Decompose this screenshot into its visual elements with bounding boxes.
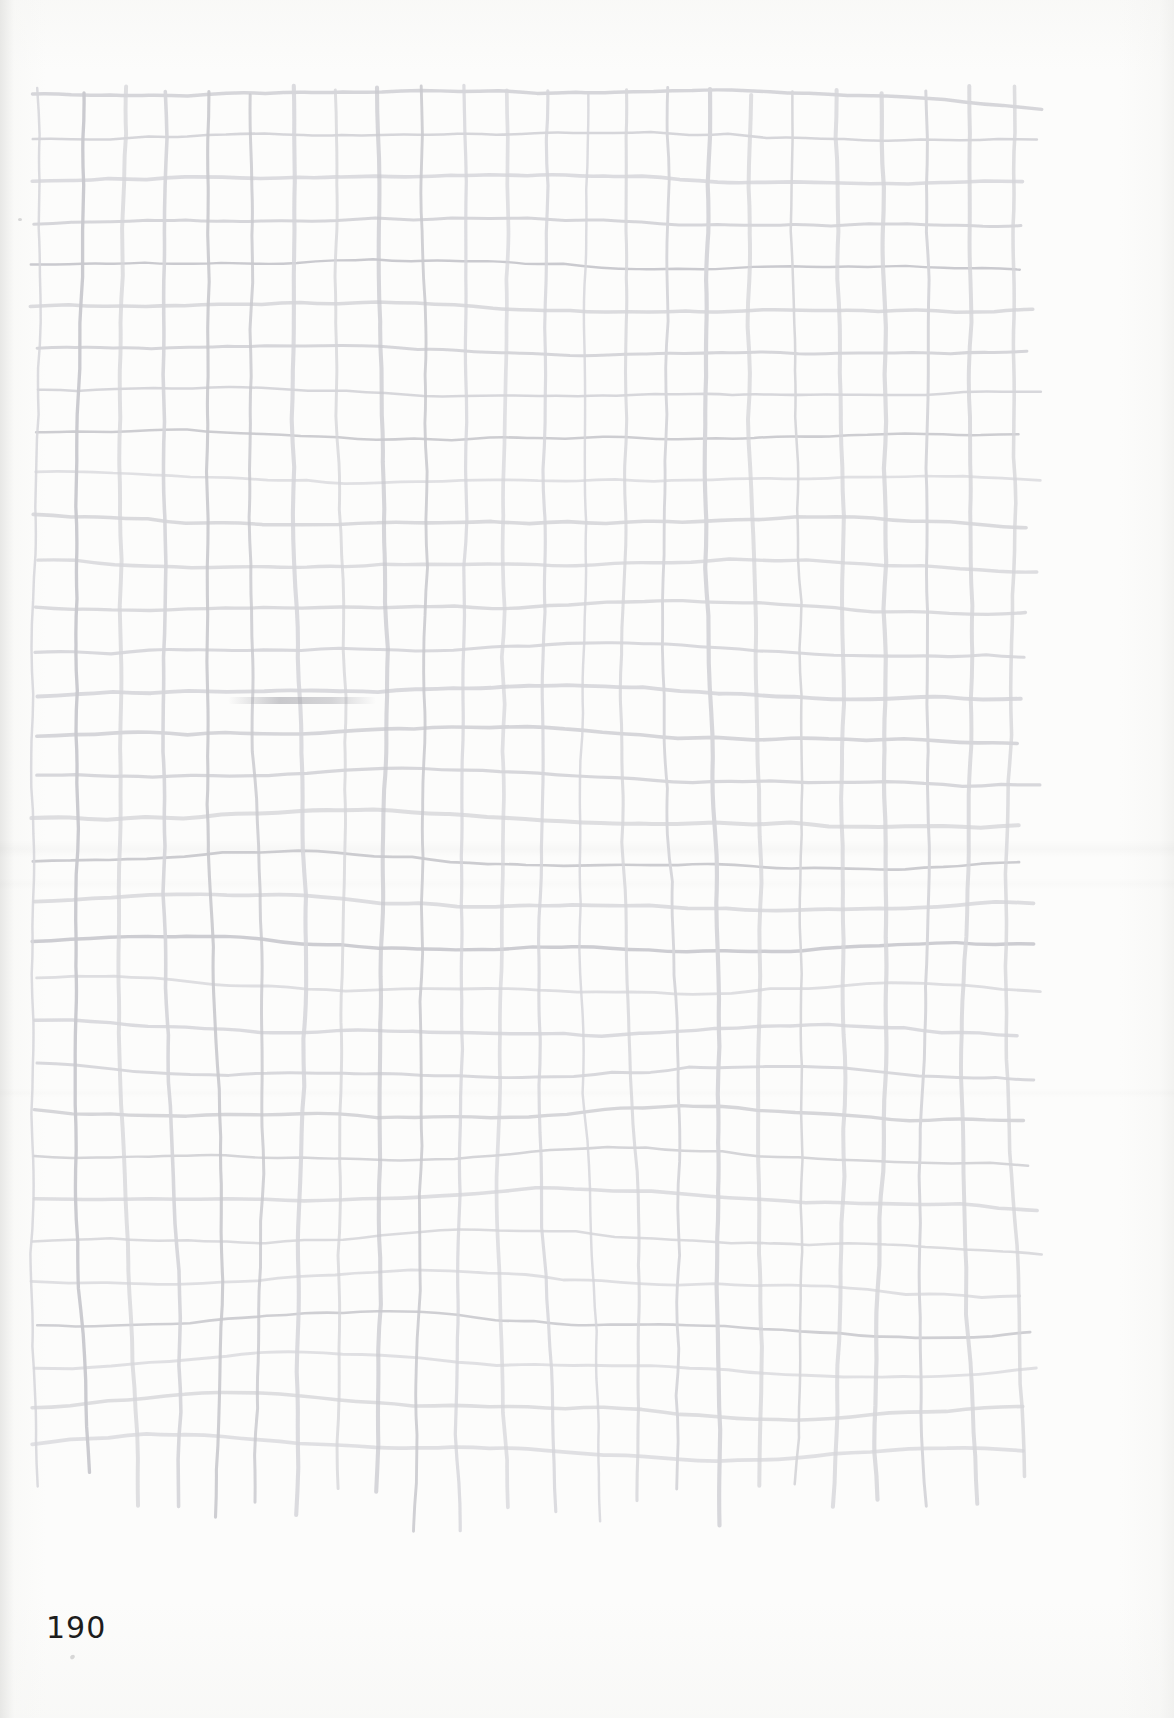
grid-line-vertical <box>579 95 600 1522</box>
grid-line-horizontal <box>35 643 1024 657</box>
grid-line-horizontal <box>36 429 1018 440</box>
grid-line-horizontal <box>32 175 1022 184</box>
grid-line-horizontal <box>35 1020 1017 1036</box>
grid-line-vertical <box>961 86 977 1504</box>
grid-line-vertical <box>539 91 556 1512</box>
grid-line-horizontal <box>37 685 1020 699</box>
hand-drawn-grid <box>0 0 1174 1718</box>
grid-line-horizontal <box>30 302 1033 312</box>
grid-line-vertical <box>662 87 679 1489</box>
grid-line-vertical <box>620 90 639 1501</box>
grid-line-horizontal <box>31 259 1020 270</box>
grid-line-horizontal <box>33 851 1019 870</box>
grid-line-horizontal <box>34 1147 1028 1166</box>
grid-line-horizontal <box>36 601 1026 615</box>
grid-line-vertical <box>75 93 89 1473</box>
grid-line-horizontal <box>37 768 1040 786</box>
grid-line-vertical <box>497 90 509 1507</box>
grid-line-horizontal <box>34 218 1021 227</box>
grid-line-horizontal <box>36 471 1041 483</box>
grid-line-horizontal <box>35 894 1034 910</box>
grid-line-horizontal <box>38 387 1041 397</box>
grid-line-vertical <box>1005 86 1024 1476</box>
grid-line-vertical <box>376 88 388 1492</box>
grid-line-horizontal <box>33 1229 1042 1254</box>
grid-line-horizontal <box>35 1188 1038 1211</box>
grid-line-vertical <box>874 93 886 1499</box>
grid-line-horizontal <box>34 1106 1023 1121</box>
grid-line-horizontal <box>32 936 1034 952</box>
grid-line-vertical <box>833 90 846 1507</box>
grid-line-vertical <box>705 89 721 1526</box>
grid-line-vertical <box>455 85 467 1530</box>
grid-line-vertical <box>335 90 346 1489</box>
grid-line-horizontal <box>31 810 1018 828</box>
grid-line-horizontal <box>37 1311 1030 1338</box>
grid-line-horizontal <box>33 132 1037 141</box>
grid-horizontal-lines <box>30 90 1041 1461</box>
grid-line-horizontal <box>33 90 1042 110</box>
grid-line-vertical <box>118 87 138 1506</box>
grid-line-horizontal <box>37 727 1017 744</box>
grid-line-horizontal <box>37 345 1027 355</box>
grid-line-horizontal <box>34 1352 1036 1377</box>
grid-line-horizontal <box>33 514 1026 527</box>
scanned-page: 190 <box>0 0 1174 1718</box>
grid-line-vertical <box>30 88 40 1486</box>
grid-line-vertical <box>748 95 762 1486</box>
grid-vertical-lines <box>30 85 1024 1531</box>
grid-line-vertical <box>292 86 306 1515</box>
grid-line-vertical <box>791 92 803 1485</box>
page-number: 190 <box>46 1613 106 1643</box>
grid-line-vertical <box>163 92 181 1507</box>
